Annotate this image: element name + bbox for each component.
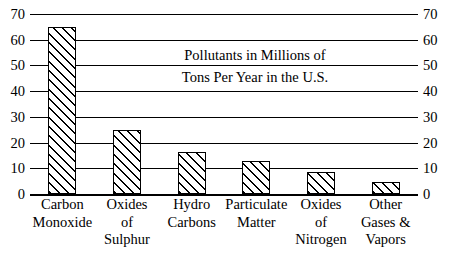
y-tick-right-70: 70 [423,7,438,22]
gridline-70 [30,14,418,15]
x-category-label-2-line-0: Hydro [159,196,224,214]
y-tick-left-50: 50 [11,58,26,73]
y-tick-right-10: 10 [423,161,438,176]
y-tick-right-0: 0 [423,187,430,202]
x-category-label-2-line-1: Carbons [159,214,224,232]
bar-0 [48,27,76,194]
bar-2 [178,152,206,194]
y-tick-right-60: 60 [423,33,438,48]
y-tick-left-10: 10 [11,161,26,176]
bar-4 [307,172,335,194]
y-tick-left-60: 60 [11,33,26,48]
x-category-label-3: ParticulateMatter [224,196,289,231]
y-axis-right: 010203040506070 [423,14,449,194]
x-category-label-3-line-0: Particulate [224,196,289,214]
y-tick-right-30: 30 [423,110,438,125]
gridline-10 [30,168,418,169]
x-category-label-2: HydroCarbons [159,196,224,231]
x-category-label-4: OxidesofNitrogen [289,196,354,249]
y-tick-right-40: 40 [423,84,438,99]
chart-title: Pollutants in Millions ofTons Per Year i… [120,44,390,88]
gridline-60 [30,40,418,41]
x-category-label-0-line-0: Carbon [30,196,95,214]
x-category-label-0-line-1: Monoxide [30,214,95,232]
x-category-label-5-line-1: Gases & [353,214,418,232]
bar-5 [372,182,400,194]
y-tick-left-30: 30 [11,110,26,125]
x-category-label-4-line-0: Oxides [289,196,354,214]
y-axis-left: 010203040506070 [0,14,25,194]
pollutants-bar-chart: 010203040506070 010203040506070 Pollutan… [0,0,449,255]
x-category-label-1-line-1: of [95,214,160,232]
x-category-label-5-line-0: Other [353,196,418,214]
x-category-label-5: OtherGases &Vapors [353,196,418,249]
x-category-label-5-line-2: Vapors [353,231,418,249]
plot-area [30,14,418,194]
bar-1 [113,130,141,194]
chart-title-line-1: Tons Per Year in the U.S. [120,66,390,88]
x-category-label-4-line-2: Nitrogen [289,231,354,249]
x-axis-categories: CarbonMonoxideOxidesofSulphurHydroCarbon… [30,196,418,254]
bar-3 [242,161,270,194]
y-tick-left-40: 40 [11,84,26,99]
y-tick-right-20: 20 [423,136,438,151]
y-tick-right-50: 50 [423,58,438,73]
y-tick-left-70: 70 [11,7,26,22]
x-category-label-0: CarbonMonoxide [30,196,95,231]
x-category-label-1-line-0: Oxides [95,196,160,214]
chart-title-line-0: Pollutants in Millions of [120,44,390,66]
gridline-40 [30,91,418,92]
x-category-label-1-line-2: Sulphur [95,231,160,249]
x-category-label-3-line-1: Matter [224,214,289,232]
y-tick-left-0: 0 [18,187,25,202]
gridline-30 [30,117,418,118]
x-category-label-4-line-1: of [289,214,354,232]
y-tick-left-20: 20 [11,136,26,151]
gridline-20 [30,143,418,144]
x-category-label-1: OxidesofSulphur [95,196,160,249]
